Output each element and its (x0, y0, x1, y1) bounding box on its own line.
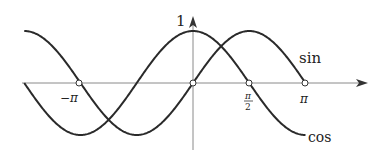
x-tick-pi: π (299, 92, 309, 106)
x-tick-half-pi-numerator: π (244, 91, 252, 101)
x-tick-half-pi-denominator: 2 (245, 102, 251, 112)
sine-cosine-diagram: 1 −π π 2 π sin cos (0, 0, 381, 155)
x-tick-neg-pi: −π (60, 91, 79, 105)
point-origin (190, 80, 196, 86)
point-pi (302, 80, 308, 86)
y-axis-label-one: 1 (176, 12, 186, 30)
sin-label: sin (299, 49, 321, 67)
point-neg-pi (76, 80, 82, 86)
point-half-pi (246, 80, 252, 86)
cos-label: cos (308, 129, 331, 145)
